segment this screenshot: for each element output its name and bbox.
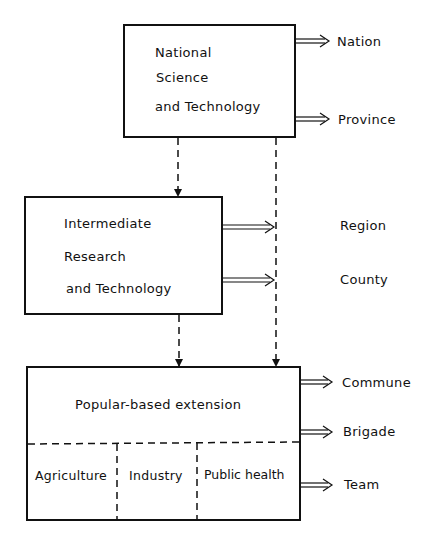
arrow-region [223, 221, 274, 233]
arrow-commune [301, 376, 332, 388]
popular-box-title: Popular-based extension [75, 397, 241, 413]
intermediate-box-line-3: and Technology [66, 281, 172, 297]
level-nation: Nation [337, 34, 381, 50]
level-region: Region [340, 218, 386, 234]
level-county: County [340, 272, 388, 288]
level-brigade: Brigade [343, 424, 395, 440]
arrow-county [223, 274, 274, 286]
section-agriculture: Agriculture [35, 468, 107, 484]
intermediate-box-line-2: Research [64, 249, 126, 265]
national-box [124, 25, 295, 137]
level-team: Team [344, 477, 380, 493]
national-box-line-2: Science [156, 70, 209, 86]
arrow-nation [296, 35, 329, 47]
popular-divider-horizontal [28, 442, 299, 444]
national-box-line-3: and Technology [155, 99, 261, 115]
section-industry: Industry [129, 468, 183, 484]
arrow-brigade [301, 426, 332, 438]
section-public-health: Public health [204, 467, 285, 483]
intermediate-box-line-1: Intermediate [64, 216, 151, 232]
arrow-province [296, 113, 329, 125]
level-commune: Commune [342, 375, 411, 391]
arrow-team [301, 479, 332, 491]
national-box-line-1: National [155, 45, 212, 61]
level-province: Province [338, 112, 396, 128]
